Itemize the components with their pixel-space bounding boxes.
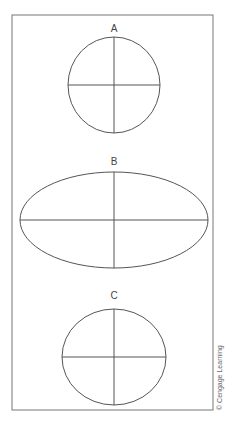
label-b: B: [111, 156, 118, 167]
frame-border: [12, 15, 213, 410]
label-c: C: [110, 290, 117, 301]
label-a: A: [111, 23, 118, 34]
shape-a: A: [68, 23, 160, 133]
copyright-text: © Cengage Learning: [216, 345, 223, 410]
shape-c: C: [62, 290, 166, 405]
diagram-canvas: ABC: [0, 0, 243, 424]
shape-b: B: [20, 156, 208, 268]
